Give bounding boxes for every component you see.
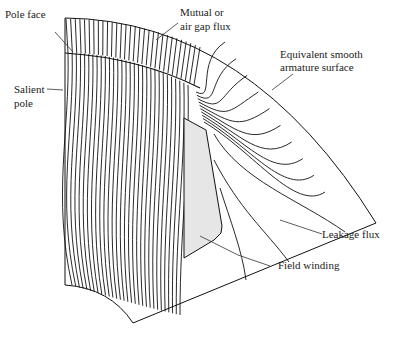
label-pole-face: Pole face [5, 8, 46, 21]
label-field-winding: Field winding [278, 259, 339, 272]
label-armature-2: armature surface [280, 61, 354, 74]
label-mutual-flux-2: air gap flux [180, 20, 231, 33]
label-mutual-flux-1: Mutual or [180, 6, 224, 19]
label-armature-1: Equivalent smooth [280, 48, 363, 61]
label-leakage-flux: Leakage flux [322, 228, 380, 241]
label-salient-1: Salient [14, 83, 45, 96]
label-salient-2: pole [14, 97, 33, 110]
salient-pole-diagram: Pole face Mutual or air gap flux Equival… [0, 0, 398, 337]
field-winding-shape [184, 118, 222, 258]
